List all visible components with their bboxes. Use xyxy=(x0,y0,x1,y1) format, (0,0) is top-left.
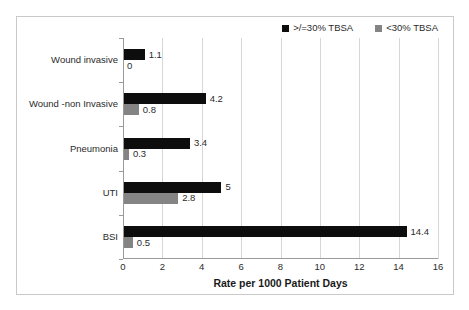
bar-row: 0.5 xyxy=(123,237,150,248)
bar-value-label: 3.4 xyxy=(194,138,207,148)
bar-row: 14.4 xyxy=(123,226,429,237)
category-label: Pneumonia xyxy=(19,144,123,154)
category-label: UTI xyxy=(19,188,123,198)
plot-wrapper: Wound invasiveWound -non InvasivePneumon… xyxy=(17,17,453,294)
bar[interactable] xyxy=(123,138,190,149)
plot-area: 1.104.20.83.40.352.814.40.5 xyxy=(123,38,438,259)
x-axis-title: Rate per 1000 Patient Days xyxy=(123,278,438,289)
bar-row: 4.2 xyxy=(123,93,223,104)
bar[interactable] xyxy=(123,49,145,60)
category-label: Wound -non Invasive xyxy=(19,99,123,109)
bar-row: 0.8 xyxy=(123,104,156,115)
category-label: Wound invasive xyxy=(19,55,123,65)
category-axis-labels: Wound invasiveWound -non InvasivePneumon… xyxy=(17,38,123,259)
x-tick-label: 10 xyxy=(315,262,326,272)
bar[interactable] xyxy=(123,104,139,115)
bar-value-label: 14.4 xyxy=(411,227,430,237)
x-tick-label: 6 xyxy=(238,262,243,272)
chart-frame: >/=30% TBSA <30% TBSA Wound invasiveWoun… xyxy=(16,16,454,295)
bar-value-label: 4.2 xyxy=(210,94,223,104)
x-axis-tick-labels: 0246810121416 xyxy=(123,262,438,276)
gridline xyxy=(438,38,439,259)
bar-value-label: 0 xyxy=(127,61,132,71)
y-axis-line xyxy=(123,38,124,259)
bar-row: 0 xyxy=(123,60,132,71)
x-tick-label: 14 xyxy=(393,262,404,272)
bar-row: 5 xyxy=(123,182,231,193)
bar-value-label: 1.1 xyxy=(149,50,162,60)
bar-row: 2.8 xyxy=(123,193,195,204)
bar-value-label: 5 xyxy=(225,182,230,192)
x-tick-label: 2 xyxy=(160,262,165,272)
bar[interactable] xyxy=(123,193,178,204)
bar-row: 3.4 xyxy=(123,138,207,149)
bar-row: 1.1 xyxy=(123,49,162,60)
x-tick-label: 0 xyxy=(120,262,125,272)
bar[interactable] xyxy=(123,93,206,104)
bar[interactable] xyxy=(123,226,407,237)
x-tick-label: 8 xyxy=(278,262,283,272)
bar-row: 0.3 xyxy=(123,149,146,160)
x-tick-label: 16 xyxy=(433,262,444,272)
bar-value-label: 0.3 xyxy=(133,149,146,159)
y-axis-tick-mark xyxy=(119,259,123,260)
bar-value-label: 0.5 xyxy=(137,238,150,248)
x-axis-line xyxy=(123,258,438,259)
category-label: BSI xyxy=(19,232,123,242)
x-tick-label: 4 xyxy=(199,262,204,272)
bar[interactable] xyxy=(123,237,133,248)
bar-value-label: 2.8 xyxy=(182,193,195,203)
bar[interactable] xyxy=(123,182,221,193)
bar-value-label: 0.8 xyxy=(143,105,156,115)
x-tick-label: 12 xyxy=(354,262,365,272)
